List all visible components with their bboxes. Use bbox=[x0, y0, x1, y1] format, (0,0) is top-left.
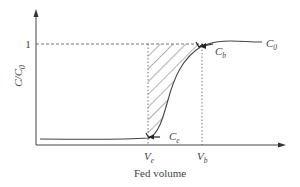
ce-label: Ce bbox=[169, 130, 180, 145]
breakthrough-curve-diagram: 1 C/C0 C0 Cb Ce Ve Vb Fed volume bbox=[0, 0, 300, 187]
y-tick-label-one: 1 bbox=[25, 38, 31, 50]
x-axis bbox=[36, 143, 286, 148]
y-axis-label: C/C0 bbox=[12, 65, 27, 87]
vb-label: Vb bbox=[197, 150, 208, 165]
y-axis bbox=[34, 9, 39, 145]
ve-label: Ve bbox=[144, 150, 155, 165]
x-axis-arrow-icon bbox=[278, 143, 286, 148]
cb-label: Cb bbox=[215, 45, 226, 60]
c0-label: C0 bbox=[266, 37, 277, 52]
x-axis-label: Fed volume bbox=[134, 167, 186, 179]
y-axis-arrow-icon bbox=[34, 9, 39, 17]
